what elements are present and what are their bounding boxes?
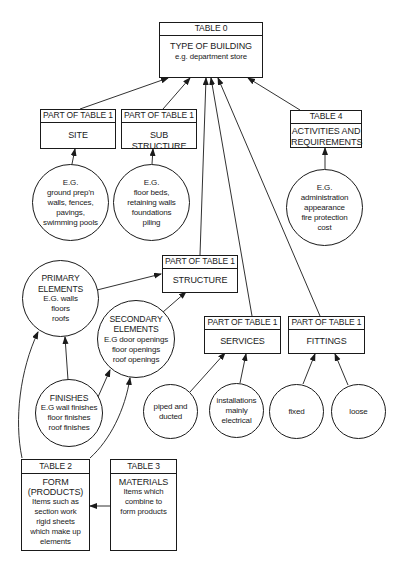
circle-line: cost	[317, 223, 331, 233]
structure-header: PART OF TABLE 1	[163, 256, 237, 269]
table-4-title-line1: ACTIVITIES AND	[291, 126, 361, 137]
circle-line: PRIMARY	[42, 273, 80, 284]
circle-line: retaining walls	[127, 198, 175, 208]
site-header: PART OF TABLE 1	[41, 110, 115, 123]
services-box: PART OF TABLE 1 SERVICES	[204, 316, 281, 354]
substructure-header: PART OF TABLE 1	[122, 110, 196, 123]
table-3-line: Items which	[111, 487, 176, 497]
circle-line: roof openings	[113, 355, 160, 365]
circle-line: swimming pools	[43, 218, 98, 228]
structure-box: PART OF TABLE 1 STRUCTURE	[162, 255, 238, 293]
circle-line: floor openings	[112, 345, 160, 355]
circle-line: SECONDARY	[110, 314, 163, 325]
circle-line: roofs	[52, 314, 69, 324]
circle-line: piped and	[154, 402, 188, 412]
table-2-line: (PRODUCTS)	[22, 487, 89, 497]
circle-line: FINISHES	[50, 393, 88, 404]
table-2-line: elements	[22, 537, 89, 547]
structure-title: STRUCTURE	[163, 275, 237, 286]
table-0-type-of-building: TABLE 0 TYPE OF BUILDING e.g. department…	[159, 22, 263, 78]
table-0-header: TABLE 0	[160, 23, 262, 36]
circle-line: pavings,	[56, 208, 85, 218]
table-4-header: TABLE 4	[291, 111, 361, 124]
piped-and-ducted-circle: piped and ducted	[143, 384, 198, 439]
fittings-box: PART OF TABLE 1 FITTINGS	[288, 316, 365, 354]
fittings-header: PART OF TABLE 1	[289, 317, 364, 330]
circle-line: walls, fences,	[48, 198, 94, 208]
fixed-circle: fixed	[269, 384, 324, 439]
circle-line: fixed	[288, 407, 304, 417]
circle-line: E.G door openings	[104, 335, 168, 345]
table-3-line: form products	[111, 507, 176, 517]
circle-line: E.G.	[317, 183, 332, 193]
table-4-activities-box: TABLE 4 ACTIVITIES AND REQUIREMENTS	[290, 110, 362, 148]
circle-line: appearance	[304, 203, 345, 213]
table-0-subtitle: e.g. department store	[160, 52, 262, 62]
table-2-form-products-box: TABLE 2 FORM (PRODUCTS) Items such as se…	[21, 459, 90, 551]
circle-line: ground prep'n	[47, 188, 94, 198]
table-3-header: TABLE 3	[111, 460, 176, 474]
circle-line: electrical	[221, 416, 251, 426]
table-2-line: FORM	[22, 477, 89, 487]
circle-line: ELEMENTS	[113, 324, 158, 335]
circle-line: E.G.	[63, 178, 78, 188]
installations-circle: installations mainly electrical	[209, 383, 264, 438]
finishes-circle: FINISHES E.G wall finishes floor finishe…	[35, 379, 103, 447]
circle-line: loose	[349, 407, 367, 417]
substructure-box: PART OF TABLE 1 SUB STRUCTURE	[121, 109, 197, 149]
circle-line: ducted	[159, 412, 182, 422]
loose-circle: loose	[331, 384, 386, 439]
circle-line: mainly	[225, 406, 247, 416]
site-examples-circle: E.G. ground prep'n walls, fences, paving…	[32, 164, 109, 241]
table-0-title: TYPE OF BUILDING	[160, 41, 262, 52]
circle-line: installations	[217, 396, 257, 406]
site-title: SITE	[41, 130, 115, 141]
secondary-elements-circle: SECONDARY ELEMENTS E.G door openings flo…	[97, 300, 175, 378]
circle-line: piling	[143, 218, 161, 228]
circle-line: foundations	[132, 208, 172, 218]
circle-line: fire protection	[301, 213, 347, 223]
table-3-line: MATERIALS	[111, 477, 176, 487]
circle-line: floors	[51, 304, 70, 314]
services-title: SERVICES	[205, 336, 280, 347]
circle-line: E.G. walls	[43, 294, 78, 304]
primary-elements-circle: PRIMARY ELEMENTS E.G. walls floors roofs	[22, 260, 99, 337]
table-3-materials-box: TABLE 3 MATERIALS Items which combine to…	[110, 459, 177, 551]
site-box: PART OF TABLE 1 SITE	[40, 109, 116, 149]
table-2-line: which make up	[22, 527, 89, 537]
circle-line: E.G wall finishes	[41, 403, 98, 413]
table-4-examples-circle: E.G. administration appearance fire prot…	[286, 169, 363, 246]
circle-line: floor finishes	[48, 413, 91, 423]
fittings-title: FITTINGS	[289, 336, 364, 347]
circle-line: roof finishes	[48, 423, 89, 433]
table-4-title-line2: REQUIREMENTS	[291, 137, 361, 148]
table-2-header: TABLE 2	[22, 460, 89, 474]
services-header: PART OF TABLE 1	[205, 317, 280, 330]
substructure-title: SUB STRUCTURE	[122, 130, 196, 151]
circle-line: floor beds,	[134, 188, 170, 198]
circle-line: E.G.	[144, 178, 159, 188]
table-2-line: Items such as	[22, 497, 89, 507]
circle-line: ELEMENTS	[38, 284, 83, 295]
table-2-line: section work	[22, 507, 89, 517]
table-3-line: combine to	[111, 497, 176, 507]
circle-line: administration	[301, 193, 349, 203]
table-2-line: rigid sheets	[22, 517, 89, 527]
substructure-examples-circle: E.G. floor beds, retaining walls foundat…	[113, 164, 190, 241]
